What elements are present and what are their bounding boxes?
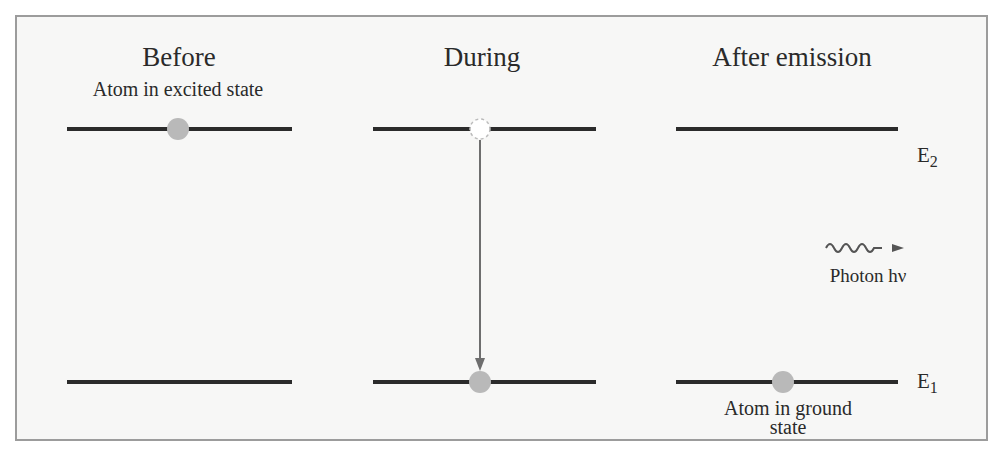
during-title: During xyxy=(444,42,521,73)
after-caption-line2: state xyxy=(770,417,807,437)
level-e2-subscript: 2 xyxy=(930,153,938,170)
level-label-e2: E2 xyxy=(917,143,938,171)
vacated-state-icon xyxy=(470,119,490,139)
transition-arrow-head-icon xyxy=(475,358,485,371)
level-e2-letter: E xyxy=(917,143,930,167)
excited-atom-icon xyxy=(167,118,189,140)
ground-atom-icon xyxy=(772,371,794,393)
photon-wave-icon xyxy=(826,244,882,252)
before-title: Before xyxy=(142,42,215,73)
photon-label: Photon hν xyxy=(830,266,907,286)
level-e1-letter: E xyxy=(917,369,930,393)
level-e1-subscript: 1 xyxy=(930,379,938,396)
before-caption: Atom in excited state xyxy=(93,79,264,99)
photon-arrow-head-icon xyxy=(892,244,904,252)
transitioned-atom-icon xyxy=(469,371,491,393)
after-title: After emission xyxy=(712,42,872,73)
level-label-e1: E1 xyxy=(917,369,938,397)
after-caption-line1: Atom in ground xyxy=(724,398,852,418)
